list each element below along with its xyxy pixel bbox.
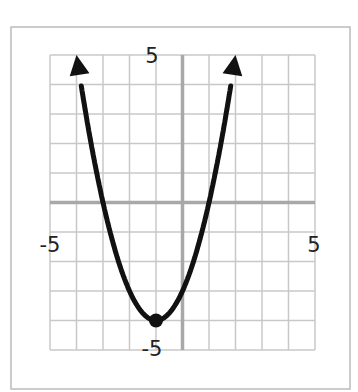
x-min-label: -5: [40, 233, 61, 257]
x-max-label: 5: [307, 233, 320, 257]
arrow-right-icon: [223, 55, 243, 76]
outer-frame: [11, 27, 350, 389]
y-min-label: -5: [142, 337, 163, 361]
arrow-left-icon: [70, 55, 90, 76]
y-max-label: 5: [145, 44, 158, 68]
vertex-point: [149, 314, 163, 328]
axes: [50, 55, 315, 350]
parabola-chart: 5 -5 -5 5: [0, 0, 358, 392]
